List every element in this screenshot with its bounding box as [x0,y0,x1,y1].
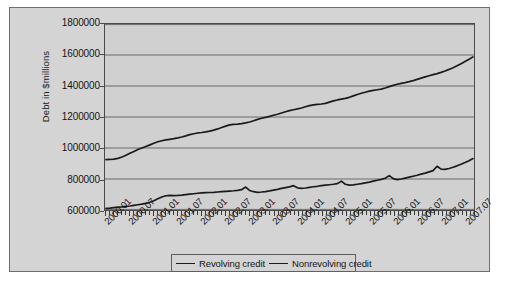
x-tick-mark [217,211,218,215]
chart-legend: Revolving credit Nonrevolving credit [171,254,356,272]
legend-label: Nonrevolving credit [292,258,371,269]
x-tick-mark [442,211,443,216]
legend-line-swatch [269,263,288,264]
y-tick-label: 1200000 [62,112,100,122]
x-tick-mark [322,211,323,216]
x-tick-mark [342,211,343,215]
x-tick-mark [418,211,419,216]
x-tick-mark [237,211,238,215]
x-tick-mark [137,211,138,215]
x-tick-mark [406,211,407,215]
x-tick-mark [450,211,451,215]
x-tick-mark [169,211,170,215]
x-tick-mark [386,211,387,215]
x-tick-mark [370,211,371,216]
x-tick-mark [330,211,331,215]
x-tick-mark [274,211,275,216]
x-tick-mark [374,211,375,215]
scan-smudge-text: · · · · · · · · [0,0,80,2]
x-tick-mark [141,211,142,215]
x-tick-mark [346,211,347,216]
x-tick-mark [117,211,118,215]
x-tick-mark [149,211,150,215]
x-tick-mark [225,211,226,216]
legend-item-revolving-credit[interactable]: Revolving credit [176,258,265,269]
x-tick-mark [249,211,250,216]
x-tick-mark [366,211,367,215]
x-tick-mark [394,211,395,216]
x-tick-mark [189,211,190,215]
x-tick-mark [269,211,270,215]
x-tick-mark [253,211,254,215]
x-tick-mark [282,211,283,215]
x-tick-mark [161,211,162,215]
series-paths [106,57,473,209]
x-axis-tick-marks [104,211,475,216]
x-tick-mark [109,211,110,215]
x-tick-mark [294,211,295,215]
x-tick-mark [458,211,459,215]
x-tick-mark [358,211,359,215]
x-tick-mark [310,211,311,215]
x-tick-mark [382,211,383,215]
x-tick-mark [390,211,391,215]
x-tick-mark [290,211,291,215]
x-tick-mark [438,211,439,215]
x-tick-mark [181,211,182,215]
x-tick-mark [278,211,279,215]
x-tick-mark [426,211,427,215]
x-tick-mark [466,211,467,216]
x-tick-mark [414,211,415,215]
x-tick-mark [354,211,355,215]
y-axis-tick-labels: 1800000160000014000001200000100000080000… [34,15,100,215]
x-tick-mark [105,211,106,216]
x-tick-mark [257,211,258,215]
y-tick-label: 1800000 [62,18,100,28]
gridlines [105,25,474,210]
x-tick-mark [145,211,146,215]
x-tick-mark [113,211,114,215]
series-line-revolving-credit [106,159,473,209]
x-tick-mark [402,211,403,215]
x-tick-mark [306,211,307,215]
y-tick-label: 600000 [67,206,100,216]
x-tick-mark [410,211,411,215]
legend-item-nonrevolving-credit[interactable]: Nonrevolving credit [269,258,371,269]
chart-page: · · · · · · · · Debt in $millions 180000… [0,0,509,286]
x-tick-mark [430,211,431,215]
x-tick-mark [197,211,198,215]
x-tick-mark [129,211,130,216]
x-tick-mark [470,211,471,215]
x-tick-mark [245,211,246,215]
x-tick-mark [261,211,262,215]
x-tick-mark [314,211,315,215]
x-tick-mark [378,211,379,215]
x-tick-mark [422,211,423,215]
x-tick-mark [201,211,202,216]
x-tick-mark [165,211,166,215]
x-tick-mark [474,211,475,215]
x-tick-mark [193,211,194,215]
y-tick-label: 1400000 [62,81,100,91]
x-tick-mark [221,211,222,215]
x-tick-mark [121,211,122,215]
series-line-nonrevolving-credit [106,57,473,160]
y-tick-label: 1000000 [62,143,100,153]
x-tick-mark [326,211,327,215]
x-tick-mark [362,211,363,215]
x-tick-mark [173,211,174,215]
x-tick-mark [229,211,230,215]
x-tick-mark [350,211,351,215]
x-tick-mark [125,211,126,215]
x-tick-mark [205,211,206,215]
x-tick-mark [241,211,242,215]
x-tick-mark [133,211,134,215]
x-tick-mark [462,211,463,215]
legend-line-swatch [176,263,195,264]
x-tick-mark [298,211,299,216]
x-tick-mark [209,211,210,215]
x-tick-mark [446,211,447,215]
x-tick-mark [157,211,158,215]
chart-frame: Debt in $millions 1800000160000014000001… [9,7,490,272]
x-tick-mark [213,211,214,215]
